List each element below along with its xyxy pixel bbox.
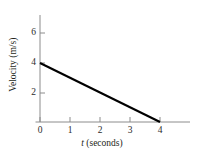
x-axis-title: t (seconds) xyxy=(0,139,204,149)
x-tick-label-4: 4 xyxy=(153,126,167,136)
y-tick-label-4: 4 xyxy=(22,58,36,68)
x-tick-label-2: 2 xyxy=(93,126,107,136)
x-tick-label-1: 1 xyxy=(63,126,77,136)
velocity-data-line xyxy=(40,63,160,122)
y-axis-title: Velocity (m/s) xyxy=(9,15,19,115)
x-tick-label-3: 3 xyxy=(123,126,137,136)
x-axis-title-units: (seconds) xyxy=(84,138,123,148)
velocity-time-chart: 6 4 2 0 1 2 3 4 t (seconds) Velocity (m/… xyxy=(0,0,204,158)
x-tick-label-0: 0 xyxy=(33,126,47,136)
y-tick-label-2: 2 xyxy=(22,88,36,98)
y-tick-label-6: 6 xyxy=(22,28,36,38)
